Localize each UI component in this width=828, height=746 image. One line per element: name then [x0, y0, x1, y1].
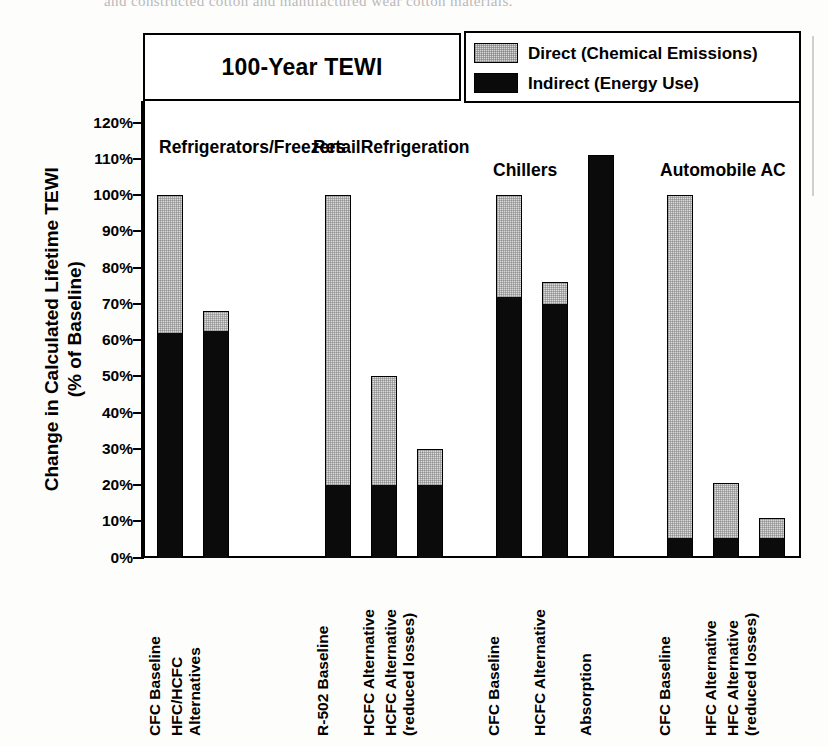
x-axis-label-line1: CFC Baseline: [656, 636, 673, 736]
x-axis-label-5: CFC Baseline: [485, 636, 503, 736]
chart-title-box: 100-Year TEWI: [143, 33, 461, 101]
scan-edge-artifact: [812, 36, 814, 196]
legend-label-indirect: Indirect (Energy Use): [528, 75, 699, 92]
legend-item-indirect: Indirect (Energy Use): [474, 68, 799, 98]
x-axis-label-line2: (reduced losses): [400, 609, 418, 736]
x-axis-label-8: CFC Baseline: [656, 636, 674, 736]
x-axis-label-line1: Absorption: [577, 653, 594, 736]
chart-legend: Direct (Chemical Emissions) Indirect (En…: [464, 31, 801, 103]
x-axis-label-line1: CFC Baseline: [146, 636, 163, 736]
x-axis-label-line1: R-502 Baseline: [314, 626, 331, 736]
legend-swatch-indirect-icon: [474, 73, 518, 93]
group-label-1: RetailRefrigeration: [313, 137, 470, 158]
legend-label-direct: Direct (Chemical Emissions): [528, 45, 758, 62]
x-axis-label-1: HFC/HCFCAlternatives: [168, 647, 204, 736]
x-axis-label-0: CFC Baseline: [146, 636, 164, 736]
x-axis-label-9: HFC Alternative: [702, 620, 720, 736]
x-axis-labels: CFC BaselineHFC/HCFCAlternativesR-502 Ba…: [0, 0, 828, 746]
chart-title: 100-Year TEWI: [221, 54, 382, 81]
x-axis-label-line2: Alternatives: [186, 647, 204, 736]
chart-screenshot: and constructed cotton and manufactured …: [0, 0, 828, 746]
x-axis-label-4: HCFC Alternative(reduced losses): [382, 609, 418, 736]
legend-swatch-direct-icon: [474, 43, 518, 63]
legend-item-direct: Direct (Chemical Emissions): [474, 38, 799, 68]
group-label-line1: Retail: [313, 137, 361, 157]
x-axis-label-line2: (reduced losses): [742, 613, 760, 736]
x-axis-label-10: HFC Alternative(reduced losses): [724, 613, 760, 736]
x-axis-label-2: R-502 Baseline: [314, 626, 332, 736]
x-axis-label-line1: CFC Baseline: [485, 636, 502, 736]
group-label-line1: Refrigerators/: [159, 137, 274, 157]
x-axis-label-line1: HFC/HCFC: [168, 657, 185, 736]
x-axis-label-line1: HCFC Alternative: [360, 609, 377, 736]
group-label-line1: Automobile AC: [660, 160, 786, 180]
group-label-2: Chillers: [493, 160, 557, 181]
x-axis-label-3: HCFC Alternative: [360, 609, 378, 736]
x-axis-label-line1: HCFC Alternative: [382, 609, 399, 736]
group-label-line1: Chillers: [493, 160, 557, 180]
group-label-line2: Refrigeration: [361, 137, 470, 157]
x-axis-label-line1: HFC Alternative: [702, 620, 719, 736]
x-axis-label-line1: HFC Alternative: [724, 620, 741, 736]
group-label-3: Automobile AC: [660, 160, 786, 181]
x-axis-label-6: HCFC Alternative: [531, 609, 549, 736]
x-axis-label-line1: HCFC Alternative: [531, 609, 548, 736]
x-axis-label-7: Absorption: [577, 653, 595, 736]
